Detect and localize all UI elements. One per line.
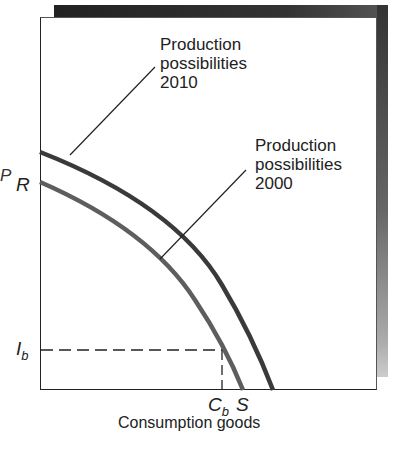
- cb-label: Cb: [208, 394, 229, 416]
- label-line: possibilities: [160, 54, 247, 73]
- cb-main: C: [208, 394, 222, 415]
- label-line: possibilities: [255, 155, 342, 174]
- cropped-axis-fragment: P: [0, 166, 11, 186]
- label-line: 2000: [255, 174, 342, 193]
- ppf-2000-label: Production possibilities 2000: [255, 136, 342, 193]
- ppf-2010-label: Production possibilities 2010: [160, 35, 247, 92]
- ppf-2010-curve: [40, 152, 273, 390]
- x-axis-label: Consumption goods: [118, 414, 260, 432]
- ib-label: Ib: [16, 338, 29, 360]
- leader-line-2000: [160, 170, 246, 259]
- leader-line-2010: [70, 67, 155, 155]
- label-line: Production: [160, 35, 247, 54]
- ib-subscript: b: [21, 348, 28, 363]
- label-line: 2010: [160, 73, 247, 92]
- ppf-2000-curve: [40, 182, 243, 390]
- r-intercept-label: R: [16, 174, 30, 196]
- label-line: Production: [255, 136, 342, 155]
- s-intercept-label: S: [236, 394, 249, 416]
